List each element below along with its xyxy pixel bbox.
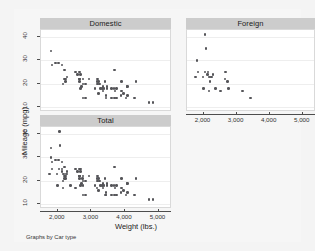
data-point: [56, 173, 59, 176]
graph-region: Mileage (mpg) Weight (lbs.) Graphs by Ca…: [14, 9, 301, 242]
data-point: [208, 90, 211, 93]
data-point: [114, 90, 117, 93]
data-point: [104, 177, 107, 180]
data-point: [197, 71, 200, 74]
data-point: [120, 177, 123, 180]
data-point: [120, 90, 123, 93]
data-point: [196, 59, 199, 62]
data-point: [104, 194, 107, 197]
data-point: [82, 184, 85, 187]
panel-domestic: Domestic10203040: [40, 18, 171, 113]
data-point: [209, 80, 212, 83]
data-point: [57, 159, 60, 162]
x-tick: [57, 209, 58, 212]
data-point: [148, 198, 151, 201]
gridline: [41, 37, 170, 38]
data-point: [84, 180, 87, 183]
data-point: [113, 97, 116, 100]
x-axis-line: [40, 211, 171, 212]
data-point: [122, 189, 125, 192]
y-tick: [37, 59, 40, 60]
data-point: [51, 161, 54, 164]
plot-area-foreign: [186, 29, 315, 111]
y-tick-label: 40: [21, 123, 28, 143]
y-tick: [37, 133, 40, 134]
data-point: [82, 78, 85, 81]
gridline: [187, 107, 314, 108]
y-tick-label: 40: [21, 26, 28, 46]
data-point: [96, 83, 99, 86]
data-point: [194, 76, 197, 79]
data-point: [51, 64, 54, 67]
data-point: [58, 130, 61, 133]
data-point: [63, 69, 66, 72]
x-tick: [158, 209, 159, 212]
data-point: [97, 92, 100, 95]
gridline: [41, 134, 170, 135]
data-point: [133, 97, 136, 100]
data-point: [133, 194, 136, 197]
x-axis-title: Weight (lbs.): [115, 222, 157, 231]
data-point: [103, 87, 106, 90]
y-tick-label: 30: [21, 49, 28, 69]
data-point: [120, 94, 123, 97]
data-point: [69, 184, 72, 187]
data-point: [76, 170, 79, 173]
data-point: [152, 101, 155, 104]
y-tick-label: 10: [21, 193, 28, 213]
data-point: [88, 175, 91, 178]
data-point: [88, 78, 91, 81]
data-point: [50, 147, 53, 150]
data-point: [63, 177, 66, 180]
data-point: [110, 87, 113, 90]
data-point: [64, 80, 67, 83]
panel-title-foreign: Foreign: [186, 18, 315, 29]
y-tick: [37, 156, 40, 157]
y-tick-label: 10: [21, 96, 28, 116]
gridline: [41, 107, 170, 108]
data-point: [241, 90, 244, 93]
data-point: [214, 87, 217, 90]
data-point: [54, 62, 57, 65]
data-point: [106, 87, 109, 90]
data-point: [81, 177, 84, 180]
data-point: [106, 182, 109, 185]
data-point: [224, 71, 227, 74]
graph-note: Graphs by Car type: [26, 234, 76, 240]
data-point: [120, 191, 123, 194]
data-point: [50, 50, 53, 53]
y-tick: [37, 180, 40, 181]
data-point: [61, 64, 64, 67]
data-point: [202, 76, 205, 79]
data-point: [102, 90, 105, 93]
data-point: [106, 184, 109, 187]
data-point: [79, 87, 82, 90]
data-point: [96, 180, 99, 183]
gridline: [41, 157, 170, 158]
data-point: [202, 87, 205, 90]
data-point: [79, 73, 82, 76]
data-point: [113, 166, 116, 169]
data-point: [249, 97, 252, 100]
y-tick: [37, 106, 40, 107]
data-point: [63, 166, 66, 169]
data-point: [152, 198, 155, 201]
data-point: [62, 187, 65, 190]
y-tick-label: 20: [21, 169, 28, 189]
x-tick-label: 4,000: [261, 116, 276, 123]
gridline: [41, 60, 170, 61]
data-point: [204, 33, 207, 36]
data-point: [76, 73, 79, 76]
data-point: [135, 80, 138, 83]
data-point: [113, 69, 116, 72]
panel-foreign: Foreign2,0003,0004,0005,000: [186, 18, 315, 113]
x-tick-label: 2,000: [49, 213, 64, 220]
data-point: [59, 144, 62, 147]
x-tick: [236, 112, 237, 115]
data-point: [106, 85, 109, 88]
y-tick: [37, 36, 40, 37]
data-point: [219, 90, 222, 93]
plot-area-total: [40, 126, 171, 208]
chart-canvas: Mileage (mpg) Weight (lbs.) Graphs by Ca…: [0, 0, 315, 251]
x-tick: [90, 209, 91, 212]
